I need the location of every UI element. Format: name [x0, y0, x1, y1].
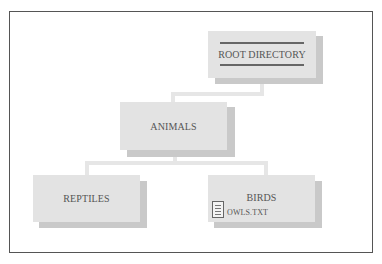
document-icon[interactable]	[212, 201, 224, 218]
root-bottom-rule	[220, 64, 304, 66]
connector-children-horizontal	[85, 161, 268, 165]
root-top-rule	[220, 42, 304, 44]
animals-node-label: ANIMALS	[150, 121, 196, 132]
connector-birds-drop	[264, 161, 268, 176]
birds-node[interactable]: BIRDS OWLS.TXT	[208, 175, 315, 222]
connector-reptiles-drop	[85, 161, 89, 176]
root-node-label: ROOT DIRECTORY	[218, 49, 305, 60]
reptiles-node[interactable]: REPTILES	[33, 175, 140, 222]
connector-root-horizontal	[171, 92, 264, 96]
animals-node[interactable]: ANIMALS	[120, 102, 227, 150]
reptiles-node-label: REPTILES	[63, 193, 109, 204]
birds-node-label: BIRDS	[247, 192, 277, 203]
root-directory-node[interactable]: ROOT DIRECTORY	[208, 31, 316, 78]
file-owls-txt[interactable]: OWLS.TXT	[227, 208, 268, 217]
